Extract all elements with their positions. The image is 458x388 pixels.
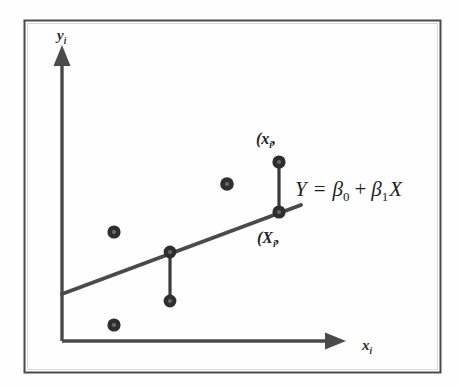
- data-point-highlight: [225, 182, 229, 186]
- data-point-highlight: [277, 210, 281, 214]
- upper-point-annotation-tail: ,: [271, 130, 276, 147]
- equation-plus-sign: +: [355, 177, 367, 201]
- equation-beta0-subscript: 0: [343, 189, 350, 204]
- data-point-highlight: [168, 250, 172, 254]
- data-point-highlight: [112, 230, 116, 234]
- equation-x-variable: X: [388, 177, 403, 201]
- x-axis-label-subscript: i: [370, 346, 373, 356]
- regression-scatter-plot: yi xi (xi, (Xi, Y=β0+β1X: [0, 0, 458, 388]
- equation-beta0: β: [332, 177, 344, 201]
- equation-beta1: β: [370, 177, 382, 201]
- lower-point-annotation-tail: ,: [275, 229, 280, 246]
- y-axis-label-base: y: [55, 27, 64, 43]
- figure-root: yi xi (xi, (Xi, Y=β0+β1X: [0, 0, 458, 388]
- lower-point-annotation-base: (X: [257, 229, 273, 247]
- data-point-highlight: [277, 160, 281, 164]
- y-axis-label-subscript: i: [64, 36, 67, 46]
- data-point-highlight: [168, 299, 172, 303]
- data-point-highlight: [112, 323, 116, 327]
- equation-equals-sign: =: [314, 177, 326, 201]
- upper-point-annotation-base: (x: [256, 130, 269, 148]
- equation-beta1-subscript: 1: [382, 189, 389, 204]
